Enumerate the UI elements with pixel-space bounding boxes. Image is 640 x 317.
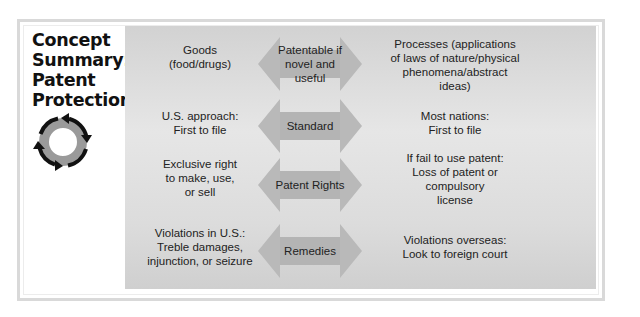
double-arrow: Patentable if novel and useful	[258, 37, 362, 91]
text-line: or sell	[125, 185, 275, 199]
concept-summary-title: Concept Summary: Patent Protection	[32, 30, 132, 110]
text-line: (food/drugs)	[125, 57, 275, 71]
other-nations-column-text: If fail to use patent: Loss of patent or…	[350, 151, 560, 207]
text-line: compulsory	[350, 179, 560, 193]
arrow-label-remedies: Remedies	[274, 224, 346, 278]
arrow-label-standard: Standard	[274, 99, 346, 153]
double-arrow: Patent Rights	[258, 158, 362, 212]
other-nations-column-text: Most nations: First to file	[350, 109, 560, 137]
text-line: U.S. approach:	[125, 109, 275, 123]
circular-arrows-cycle-icon	[33, 112, 93, 172]
us-column-text: Exclusive right to make, use, or sell	[125, 157, 275, 199]
us-column-text: Goods (food/drugs)	[125, 43, 275, 71]
text-line: First to file	[350, 123, 560, 137]
title-line: Protection	[32, 90, 132, 110]
text-line: to make, use,	[125, 171, 275, 185]
text-line: Treble damages,	[125, 240, 275, 254]
text-line: Goods	[125, 43, 275, 57]
text-line: injunction, or seizure	[125, 254, 275, 268]
other-nations-column-text: Violations overseas: Look to foreign cou…	[350, 233, 560, 261]
double-arrow: Standard	[258, 99, 362, 153]
text-line: Exclusive right	[125, 157, 275, 171]
arrow-label-patentable: Patentable if novel and useful	[274, 37, 346, 91]
text-line: of laws of nature/physical	[350, 51, 560, 65]
other-nations-column-text: Processes (applications of laws of natur…	[350, 37, 560, 93]
text-line: Most nations:	[350, 109, 560, 123]
text-line: Violations overseas:	[350, 233, 560, 247]
comparison-panel: Goods (food/drugs) Patentable if novel a…	[125, 26, 596, 289]
text-line: license	[350, 193, 560, 207]
text-line: novel and useful	[274, 57, 346, 85]
text-line: Violations in U.S.:	[125, 226, 275, 240]
text-line: phenomena/abstract	[350, 65, 560, 79]
double-arrow: Remedies	[258, 224, 362, 278]
text-line: Look to foreign court	[350, 247, 560, 261]
text-line: First to file	[125, 123, 275, 137]
text-line: Loss of patent or	[350, 165, 560, 179]
text-line: Patentable if	[274, 43, 346, 57]
arrow-label-patent-rights: Patent Rights	[274, 158, 346, 212]
title-line: Patent	[32, 70, 132, 90]
text-line: ideas)	[350, 79, 560, 93]
us-column-text: Violations in U.S.: Treble damages, inju…	[125, 226, 275, 268]
text-line: Processes (applications	[350, 37, 560, 51]
title-line: Summary:	[32, 50, 132, 70]
text-line: If fail to use patent:	[350, 151, 560, 165]
title-line: Concept	[32, 30, 132, 50]
us-column-text: U.S. approach: First to file	[125, 109, 275, 137]
